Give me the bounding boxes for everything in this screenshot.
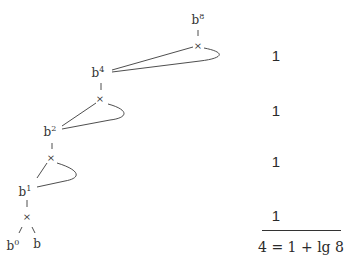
- node-b8: b8: [192, 11, 205, 26]
- node-b0: b0: [7, 237, 20, 252]
- node-b4: b4: [92, 64, 105, 79]
- cost-level-4: 1: [272, 207, 280, 224]
- edge-multiply-b2-right: [62, 104, 124, 129]
- edge-multiply-b4-right: [112, 48, 219, 72]
- edge-multiply-b1-left: [37, 163, 47, 178]
- edge-multiply-b2-left: [62, 103, 96, 126]
- edge-multiply-b0: [19, 227, 22, 233]
- edge-multiply-b: [32, 227, 35, 233]
- node-b2: b2: [44, 123, 57, 138]
- edge-multiply-b1-right: [37, 163, 76, 187]
- cost-level-1: 1: [272, 47, 280, 64]
- multiply-operator-1: ×: [194, 40, 202, 52]
- cost-level-3: 1: [272, 153, 280, 170]
- cropped-caption: [0, 262, 353, 266]
- cost-level-2: 1: [272, 102, 280, 119]
- total-cost: 4 = 1 + lg 8: [258, 239, 344, 255]
- node-b: b: [33, 238, 41, 250]
- multiply-operator-3: ×: [47, 152, 55, 164]
- multiply-operator-4: ×: [23, 211, 31, 223]
- multiply-operator-2: ×: [96, 93, 104, 105]
- node-b1: b1: [19, 183, 32, 198]
- sum-rule-line: [262, 230, 341, 231]
